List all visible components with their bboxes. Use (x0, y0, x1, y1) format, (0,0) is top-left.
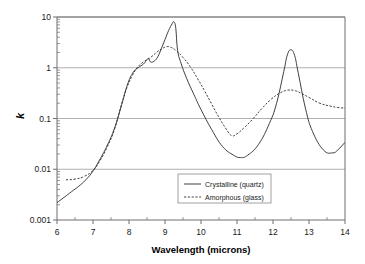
x-tick-label: 14 (340, 227, 350, 237)
x-tick-label: 11 (233, 227, 242, 237)
x-tick-label: 8 (127, 227, 132, 237)
x-tick-label: 9 (163, 227, 168, 237)
legend-label-crystalline: Crystalline (quartz) (205, 181, 264, 189)
x-axis-title: Wavelength (microns) (152, 244, 251, 255)
x-tick-label: 6 (55, 227, 60, 237)
k-vs-wavelength-chart: 0.0010.010.1110 67891011121314 Crystalli… (0, 0, 365, 264)
chart-background (0, 0, 365, 264)
legend-label-amorphous: Amorphous (glass) (205, 194, 264, 202)
y-tick-label: 0.001 (30, 215, 52, 225)
x-tick-label: 13 (304, 227, 314, 237)
chart-container: 0.0010.010.1110 67891011121314 Crystalli… (0, 0, 365, 264)
chart-legend: Crystalline (quartz)Amorphous (glass) (178, 174, 271, 203)
x-tick-label: 7 (91, 227, 96, 237)
y-tick-label: 1 (46, 63, 51, 73)
x-tick-label: 12 (268, 227, 278, 237)
y-tick-label: 0.01 (34, 164, 51, 174)
y-axis-title: k (14, 112, 26, 119)
x-tick-label: 10 (196, 227, 206, 237)
y-tick-label: 0.1 (39, 114, 51, 124)
y-tick-label: 10 (42, 12, 52, 22)
